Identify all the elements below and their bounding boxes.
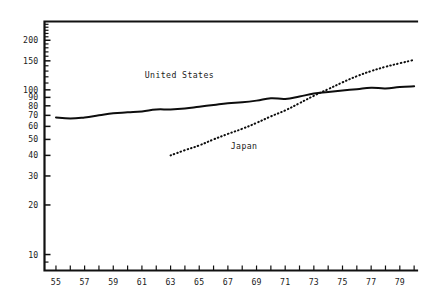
x-tick-label: 75 — [337, 277, 347, 287]
x-tick-label: 67 — [223, 277, 233, 287]
x-tick-label: 65 — [194, 277, 204, 287]
series-line-united-states — [56, 86, 414, 118]
x-tick-label: 69 — [251, 277, 261, 287]
y-tick-label: 20 — [28, 200, 38, 210]
y-tick-label: 150 — [23, 56, 38, 66]
x-tick-label: 73 — [309, 277, 319, 287]
series-label-japan: Japan — [231, 141, 258, 151]
x-tick-label: 61 — [137, 277, 147, 287]
y-tick-label: 10 — [28, 250, 38, 260]
y-tick-label: 80 — [28, 101, 38, 111]
x-tick-label: 63 — [165, 277, 175, 287]
y-tick-label: 30 — [28, 171, 38, 181]
y-tick-label: 70 — [28, 110, 38, 120]
y-tick-label: 200 — [23, 35, 38, 45]
y-axis-tick-labels: 200150100908070605040302010 — [23, 35, 38, 259]
y-tick-label: 60 — [28, 121, 38, 131]
x-tick-label: 79 — [395, 277, 405, 287]
x-tick-label: 77 — [366, 277, 376, 287]
x-tick-label: 57 — [79, 277, 89, 287]
x-tick-label: 71 — [280, 277, 290, 287]
chart-figure: 200150100908070605040302010 555759616365… — [0, 0, 448, 304]
y-tick-label: 40 — [28, 150, 38, 160]
x-tick-label: 59 — [108, 277, 118, 287]
y-tick-label: 50 — [28, 134, 38, 144]
x-axis-tick-labels: 55575961636567697173757779 — [51, 277, 405, 287]
x-tick-label: 55 — [51, 277, 61, 287]
series-label-united-states: United States — [145, 70, 214, 80]
chart-canvas: 200150100908070605040302010 555759616365… — [0, 0, 448, 304]
